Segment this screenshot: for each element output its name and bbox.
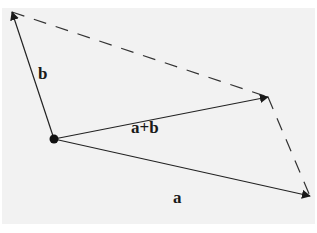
diagram-canvas: a b a+b [0,0,317,233]
vector-sum-arrow [54,97,268,139]
label-b: b [38,64,47,83]
label-a: a [173,188,182,207]
vector-a-arrow [54,139,310,196]
label-a-plus-b: a+b [131,118,159,137]
dashed-edge-sum-to-a [268,97,310,196]
origin-point [50,135,59,144]
vector-b-arrow [12,12,54,139]
dashed-edge-b-to-sum [12,12,268,97]
vector-diagram: a b a+b [0,0,317,233]
